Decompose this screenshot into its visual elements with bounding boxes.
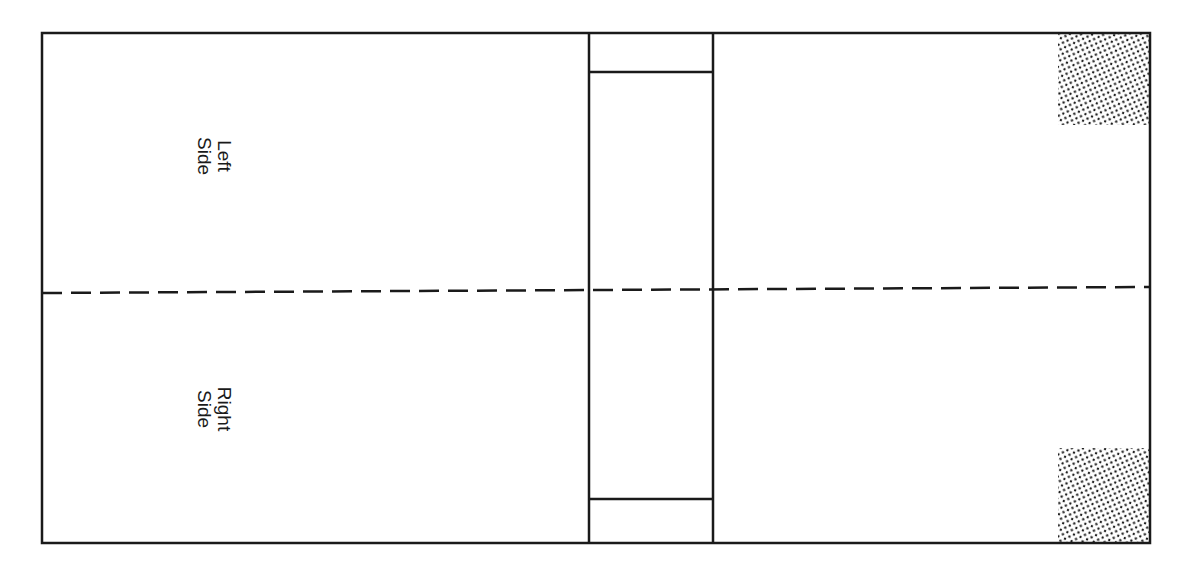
right-side-label: Right Side [190, 369, 234, 449]
left-side-label-line2: Side [194, 116, 214, 196]
fold-dashed-line [42, 287, 1150, 293]
right-side-label-line1: Right [214, 369, 234, 449]
left-side-label-line1: Left [214, 116, 234, 196]
left-side-label: Left Side [190, 116, 234, 196]
diagram-canvas [0, 0, 1190, 571]
shaded-region-top-right [1058, 33, 1150, 125]
right-side-label-line2: Side [194, 369, 214, 449]
shaded-region-bottom-right [1058, 448, 1150, 543]
book-cover-diagram: Left Side Right Side [0, 0, 1190, 571]
